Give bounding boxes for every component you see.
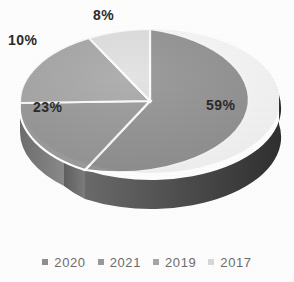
legend-swatch-icon <box>42 259 48 265</box>
legend-item-2020[interactable]: 2020 <box>42 256 85 269</box>
legend-item-2017[interactable]: 2017 <box>208 256 251 269</box>
legend-swatch-icon <box>208 259 214 265</box>
legend-item-2021[interactable]: 2021 <box>98 256 141 269</box>
pie-data-label-2019: 10% <box>8 33 38 47</box>
pie-data-label-2021: 23% <box>33 100 63 114</box>
legend-label: 2019 <box>165 256 196 269</box>
pie-chart: 59% 23% 10% 8% 2020 2021 2019 2017 <box>0 0 294 282</box>
legend-swatch-icon <box>98 259 104 265</box>
legend-label: 2017 <box>220 256 251 269</box>
legend-label: 2021 <box>110 256 141 269</box>
pie-graphic <box>0 0 294 238</box>
legend-label: 2020 <box>54 256 85 269</box>
legend-item-2019[interactable]: 2019 <box>153 256 196 269</box>
chart-legend: 2020 2021 2019 2017 <box>0 249 294 275</box>
pie-data-label-2020: 59% <box>206 98 236 112</box>
legend-swatch-icon <box>153 259 159 265</box>
pie-plot-area: 59% 23% 10% 8% <box>0 0 294 238</box>
pie-data-label-2017: 8% <box>93 8 114 22</box>
